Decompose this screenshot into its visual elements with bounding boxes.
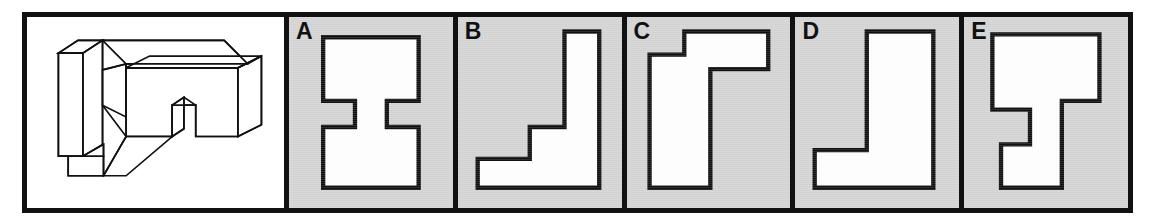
option-panel-d[interactable]: D [795, 17, 964, 208]
option-label-d: D [802, 19, 818, 43]
option-panel-b[interactable]: B [458, 17, 627, 208]
option-label-b: B [465, 19, 481, 43]
silhouette-polygon-d [815, 31, 934, 187]
option-shape-c [627, 17, 791, 208]
option-panel-a[interactable]: A [289, 17, 458, 208]
silhouette-polygon-c [649, 31, 768, 187]
isometric-solid-drawing [27, 17, 284, 208]
option-label-a: A [296, 19, 312, 43]
stimulus-panel [27, 17, 289, 208]
silhouette-polygon-a [323, 37, 419, 187]
option-label-c: C [634, 19, 650, 43]
silhouette-polygon-b [477, 31, 599, 187]
option-panel-e[interactable]: E [964, 17, 1128, 208]
silhouette-polygon-e [993, 34, 1100, 187]
option-shape-e [964, 17, 1128, 208]
option-shape-d [795, 17, 959, 208]
option-label-e: E [971, 19, 986, 43]
panel-strip: A B C D E [22, 12, 1133, 213]
spatial-reasoning-figure: A B C D E [0, 0, 1150, 224]
option-shape-b [458, 17, 622, 208]
option-shape-a [289, 17, 453, 208]
option-panel-c[interactable]: C [627, 17, 796, 208]
